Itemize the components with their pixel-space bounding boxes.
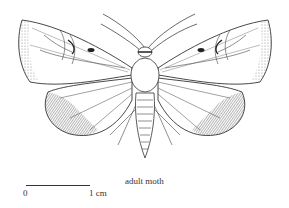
scale-bar-start-label: 0 [23, 188, 28, 198]
antennae [101, 14, 197, 50]
right-hindwing [158, 78, 245, 136]
left-hindwing [45, 78, 132, 136]
moth-body [131, 47, 159, 158]
scale-bar-end-label: 1 cm [89, 188, 107, 198]
figure-caption: adult moth [125, 176, 164, 186]
right-forewing [158, 20, 271, 84]
left-forewing [19, 20, 132, 84]
scale-bar [26, 185, 90, 186]
